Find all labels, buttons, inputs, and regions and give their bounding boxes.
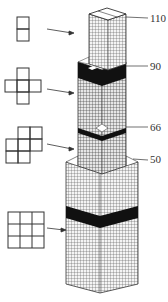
- floor-label-110: 110: [150, 13, 166, 24]
- plan-7-tubes: [6, 127, 42, 163]
- plan-2-tubes: [17, 17, 29, 41]
- tower-top-section: [89, 8, 126, 70]
- leader-lines: [126, 17, 148, 160]
- tower-diagram: [0, 0, 168, 302]
- plan-cross-5-tubes: [5, 68, 41, 104]
- tower-middle-section: [78, 57, 126, 174]
- floor-label-66: 66: [150, 122, 161, 133]
- tower-lower-section: [66, 156, 138, 293]
- plan-9-tubes: [8, 212, 44, 248]
- floor-label-50: 50: [150, 154, 161, 165]
- floor-label-90: 90: [150, 61, 161, 72]
